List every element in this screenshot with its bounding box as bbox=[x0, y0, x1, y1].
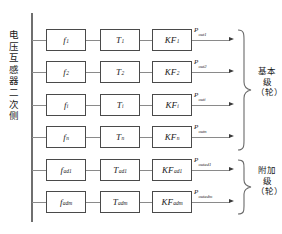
basic-stage-label: 基本级（轮） bbox=[256, 66, 278, 98]
bus-to-f-line-2 bbox=[32, 72, 46, 73]
kf-block-1-symbol: KF bbox=[165, 36, 177, 45]
output-power-1-subscript: out1 bbox=[198, 32, 206, 37]
output-power-n-subscript: outn bbox=[198, 129, 206, 134]
f-block-2-subscript: 2 bbox=[66, 71, 69, 77]
kf-block-adm: KFadm bbox=[152, 191, 192, 213]
t-block-ad1-subscript: ad1 bbox=[119, 169, 127, 175]
kf-block-ad1-subscript: ad1 bbox=[174, 169, 182, 175]
f-block-ad1-subscript: ad1 bbox=[63, 169, 71, 175]
output-power-2-subscript: out2 bbox=[198, 64, 206, 69]
t-to-kf-line-adm bbox=[140, 202, 152, 203]
t-to-kf-line-n bbox=[140, 137, 152, 138]
t-to-kf-line-1 bbox=[140, 40, 152, 41]
output-arrow-i bbox=[229, 102, 234, 106]
f-block-adm: fadm bbox=[46, 191, 86, 213]
t-block-2: T2 bbox=[100, 61, 140, 83]
kf-block-ad1-symbol: KF bbox=[162, 166, 174, 175]
bus-to-f-line-n bbox=[32, 137, 46, 138]
f-block-1: f1 bbox=[46, 29, 86, 51]
bus-to-f-line-i bbox=[32, 105, 46, 106]
output-power-label-2: Pout2 bbox=[194, 59, 206, 68]
output-power-label-ad1: Poutad1 bbox=[194, 157, 211, 166]
output-power-i-subscript: outi bbox=[198, 97, 205, 102]
t-block-1-symbol: T bbox=[116, 36, 121, 45]
t-block-n: Tn bbox=[100, 126, 140, 148]
f-block-2: f2 bbox=[46, 61, 86, 83]
f-block-n: fn bbox=[46, 126, 86, 148]
t-block-adm: Tadm bbox=[100, 191, 140, 213]
t-block-n-subscript: n bbox=[121, 136, 124, 142]
output-power-ad1-subscript: outad1 bbox=[198, 162, 211, 167]
output-arrow-1 bbox=[229, 37, 234, 41]
bus-to-f-line-ad1 bbox=[32, 170, 46, 171]
kf-block-2: KF2 bbox=[152, 61, 192, 83]
basic-stage-brace bbox=[236, 28, 254, 152]
kf-output-line-adm bbox=[192, 202, 230, 203]
kf-block-2-subscript: 2 bbox=[177, 71, 180, 77]
kf-block-n-subscript: n bbox=[177, 136, 180, 142]
kf-block-n: KFn bbox=[152, 126, 192, 148]
t-block-1-subscript: 1 bbox=[121, 39, 124, 45]
kf-block-i-subscript: i bbox=[177, 104, 179, 110]
t-block-ad1-symbol: T bbox=[113, 166, 118, 175]
t-block-n-symbol: T bbox=[116, 133, 121, 142]
kf-output-line-n bbox=[192, 137, 230, 138]
f-to-t-line-adm bbox=[86, 202, 100, 203]
f-block-i-subscript: i bbox=[67, 104, 69, 110]
output-arrow-2 bbox=[229, 69, 234, 73]
t-to-kf-line-i bbox=[140, 105, 152, 106]
frequency-division-block-diagram: 电压互感器二次侧 f1 T1 KF1 Pout1 f2 T2 bbox=[0, 0, 282, 234]
output-power-label-i: Pouti bbox=[194, 92, 205, 101]
f-to-t-line-ad1 bbox=[86, 170, 100, 171]
output-power-label-n: Poutn bbox=[194, 124, 206, 133]
output-arrow-adm bbox=[229, 199, 234, 203]
kf-output-line-2 bbox=[192, 72, 230, 73]
output-power-label-adm: Poutadm bbox=[194, 189, 212, 198]
output-arrow-n bbox=[229, 134, 234, 138]
f-block-i: fi bbox=[46, 94, 86, 116]
kf-block-ad1: KFad1 bbox=[152, 159, 192, 181]
output-power-label-1: Pout1 bbox=[194, 27, 206, 36]
f-to-t-line-i bbox=[86, 105, 100, 106]
kf-output-line-1 bbox=[192, 40, 230, 41]
kf-block-1: KF1 bbox=[152, 29, 192, 51]
kf-block-i-symbol: KF bbox=[165, 101, 177, 110]
kf-block-1-subscript: 1 bbox=[177, 39, 180, 45]
t-to-kf-line-ad1 bbox=[140, 170, 152, 171]
f-to-t-line-n bbox=[86, 137, 100, 138]
t-block-2-subscript: 2 bbox=[121, 71, 124, 77]
output-power-adm-subscript: outadm bbox=[198, 194, 212, 199]
kf-output-line-ad1 bbox=[192, 170, 230, 171]
t-block-1: T1 bbox=[100, 29, 140, 51]
bus-to-f-line-1 bbox=[32, 40, 46, 41]
kf-output-line-i bbox=[192, 105, 230, 106]
t-block-i-symbol: T bbox=[117, 101, 122, 110]
additional-stage-brace bbox=[236, 158, 254, 216]
kf-block-2-symbol: KF bbox=[165, 68, 177, 77]
t-block-adm-symbol: T bbox=[113, 198, 118, 207]
kf-block-adm-symbol: KF bbox=[162, 198, 174, 207]
t-block-2-symbol: T bbox=[116, 68, 121, 77]
additional-stage-label: 附加级（轮） bbox=[256, 165, 278, 197]
f-to-t-line-1 bbox=[86, 40, 100, 41]
left-bus-caption: 电压互感器二次侧 bbox=[8, 30, 18, 205]
f-block-n-subscript: n bbox=[66, 136, 69, 142]
f-block-1-subscript: 1 bbox=[66, 39, 69, 45]
t-block-i-subscript: i bbox=[122, 104, 124, 110]
t-to-kf-line-2 bbox=[140, 72, 152, 73]
t-block-ad1: Tad1 bbox=[100, 159, 140, 181]
t-block-adm-subscript: adm bbox=[118, 201, 127, 207]
kf-block-n-symbol: KF bbox=[165, 133, 177, 142]
bus-to-f-line-adm bbox=[32, 202, 46, 203]
t-block-i: Ti bbox=[100, 94, 140, 116]
output-arrow-ad1 bbox=[229, 167, 234, 171]
kf-block-i: KFi bbox=[152, 94, 192, 116]
f-to-t-line-2 bbox=[86, 72, 100, 73]
f-block-adm-subscript: adm bbox=[63, 201, 72, 207]
voltage-transformer-bus-line bbox=[31, 13, 33, 222]
kf-block-adm-subscript: adm bbox=[173, 201, 182, 207]
f-block-ad1: fad1 bbox=[46, 159, 86, 181]
